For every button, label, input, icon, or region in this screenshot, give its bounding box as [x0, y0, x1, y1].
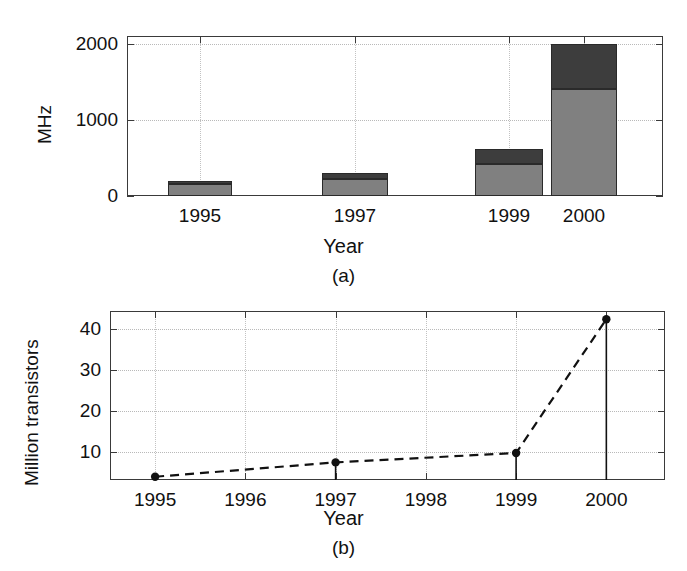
bar-segment-upper [168, 181, 232, 184]
bar-segment-upper [475, 149, 543, 163]
y-tick-right [656, 196, 663, 197]
x-tick-label: 1995 [140, 206, 260, 225]
bar-segment-upper [322, 173, 388, 179]
data-point-marker [151, 473, 159, 481]
data-point-marker [512, 449, 520, 457]
bar-stack [551, 44, 617, 196]
gridline [355, 36, 356, 196]
panel-b-caption: (b) [0, 538, 687, 557]
panel-b-y-axis-title: Million transistors [22, 339, 41, 486]
y-tick-label: 10 [80, 442, 101, 461]
x-tick-top [355, 36, 356, 43]
y-tick [127, 44, 134, 45]
x-tick-label: 2000 [524, 206, 644, 225]
x-tick-top [509, 36, 510, 43]
panel-a-y-axis-title: MHz [35, 105, 54, 144]
y-tick-label: 0 [107, 186, 118, 205]
bar-segment-lower [475, 164, 543, 196]
x-tick-label: 2000 [546, 490, 666, 509]
bar-segment-lower [168, 184, 232, 196]
y-tick-right [656, 44, 663, 45]
x-tick-label: 1997 [295, 206, 415, 225]
bar-stack [168, 181, 232, 196]
y-tick-label: 40 [80, 319, 101, 338]
y-tick-label: 2000 [76, 34, 118, 53]
panel-b-x-axis-title: Year [0, 508, 687, 528]
panel-a-bar-chart: MHz 010002000 1995199719992000 Year (a) [0, 0, 687, 290]
bar-stack [322, 173, 388, 196]
panel-b-plot-area [110, 311, 665, 480]
y-tick [127, 196, 134, 197]
panel-a-plot-area [127, 36, 663, 196]
data-point-marker [331, 458, 339, 466]
panel-a-x-axis-title: Year [0, 236, 687, 256]
y-tick-label: 1000 [76, 110, 118, 129]
bar-stack [475, 149, 543, 196]
bar-segment-upper [551, 44, 617, 90]
panel-b-data-line [110, 311, 665, 480]
y-tick-right [656, 120, 663, 121]
panel-b-line-chart: Million transistors 10203040 19951996199… [0, 290, 687, 571]
bar-segment-lower [551, 89, 617, 196]
x-tick-top [200, 36, 201, 43]
y-tick-label: 20 [80, 401, 101, 420]
bar-segment-lower [322, 179, 388, 196]
data-point-marker [602, 315, 610, 323]
x-tick-top [584, 36, 585, 43]
y-tick [127, 120, 134, 121]
gridline [200, 36, 201, 196]
panel-a-caption: (a) [0, 266, 687, 285]
y-tick-label: 30 [80, 360, 101, 379]
data-polyline [155, 319, 606, 477]
